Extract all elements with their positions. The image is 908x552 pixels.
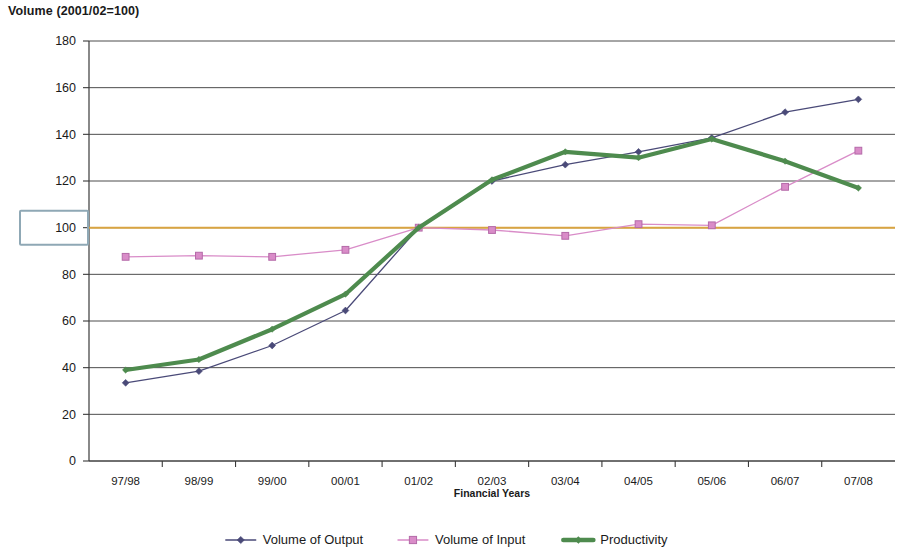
x-axis-tick-label: 05/06 xyxy=(697,475,726,487)
data-series-productivity xyxy=(122,136,861,373)
chart-legend: Volume of OutputVolume of InputProductiv… xyxy=(226,532,668,547)
data-point-square-marker xyxy=(562,232,569,239)
legend-square-marker xyxy=(409,536,416,543)
data-point-diamond-marker xyxy=(562,161,569,168)
data-point-square-marker xyxy=(342,246,349,253)
x-axis-tick-label: 00/01 xyxy=(331,475,360,487)
series-line xyxy=(126,139,859,370)
legend-item-label: Volume of Input xyxy=(435,532,526,547)
data-point-square-marker xyxy=(122,253,129,260)
y-axis-tick-label: 60 xyxy=(62,314,76,328)
y-axis-tick-label: 160 xyxy=(55,81,76,95)
data-point-square-marker xyxy=(708,222,715,229)
legend-item-label: Productivity xyxy=(600,532,668,547)
series-line xyxy=(126,151,859,257)
data-point-diamond-marker xyxy=(122,379,129,386)
x-axis-tick-label: 98/99 xyxy=(185,475,214,487)
y-axis-tick-labels: 180160140120100806040200 xyxy=(55,34,76,468)
x-axis-tick-label: 97/98 xyxy=(111,475,140,487)
chart-plot-area: 180160140120100806040200 97/9898/9999/00… xyxy=(0,0,908,552)
y-axis-tick-label: 0 xyxy=(69,454,76,468)
legend-item-volume-of-output[interactable]: Volume of Output xyxy=(226,532,364,547)
legend-diamond-marker xyxy=(237,536,244,543)
x-axis-tick-label: 99/00 xyxy=(258,475,287,487)
data-point-square-marker xyxy=(782,183,789,190)
x-axis-tick-labels: 97/9898/9999/0000/0101/0202/0303/0404/05… xyxy=(111,475,873,487)
y-axis-tick-label: 180 xyxy=(55,34,76,48)
data-point-square-marker xyxy=(489,227,496,234)
data-series-volume-of-output xyxy=(122,96,862,386)
gridlines-group xyxy=(89,41,895,461)
ytick-highlight-box xyxy=(20,211,88,245)
data-point-square-marker xyxy=(855,147,862,154)
x-axis-tick-label: 03/04 xyxy=(551,475,580,487)
series-line xyxy=(126,99,859,383)
y-axis-tick-label: 80 xyxy=(62,268,76,282)
legend-item-label: Volume of Output xyxy=(263,532,364,547)
x-axis-tick-label: 07/08 xyxy=(844,475,873,487)
legend-line-marker xyxy=(575,537,582,544)
x-axis-tick-label: 04/05 xyxy=(624,475,653,487)
data-point-diamond-marker xyxy=(782,109,789,116)
x-axis-title: Financial Years xyxy=(454,487,530,499)
data-point-square-marker xyxy=(196,252,203,259)
tickmarks-group xyxy=(83,41,822,467)
y-axis-tick-label: 120 xyxy=(55,174,76,188)
data-series-group xyxy=(122,96,862,386)
data-point-diamond-marker xyxy=(196,368,203,375)
data-point-diamond-marker xyxy=(269,342,276,349)
data-point-square-marker xyxy=(635,221,642,228)
y-axis-tick-label: 40 xyxy=(62,361,76,375)
data-series-volume-of-input xyxy=(122,147,862,260)
legend-item-volume-of-input[interactable]: Volume of Input xyxy=(398,532,526,547)
data-point-diamond-marker xyxy=(855,96,862,103)
x-axis-tick-label: 01/02 xyxy=(404,475,433,487)
y-axis-tick-label: 140 xyxy=(55,128,76,142)
y-axis-tick-label: 20 xyxy=(62,408,76,422)
data-point-square-marker xyxy=(269,253,276,260)
x-axis-tick-label: 02/03 xyxy=(478,475,507,487)
legend-item-productivity[interactable]: Productivity xyxy=(563,532,668,547)
chart-container: Volume (2001/02=100) 1801601401201008060… xyxy=(0,0,908,552)
y-axis-tick-label: 100 xyxy=(55,221,76,235)
x-axis-tick-label: 06/07 xyxy=(771,475,800,487)
